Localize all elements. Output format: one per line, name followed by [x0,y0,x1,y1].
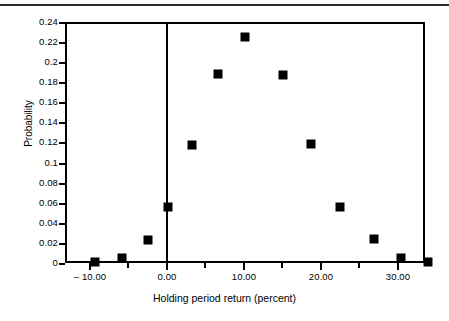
x-tick-label: 30.00 [386,271,410,282]
y-tick-mark [59,263,65,265]
y-tick-label: 0.04 [39,218,58,228]
y-tick-mark [59,122,65,124]
y-tick-label: 0 [53,258,58,268]
data-point [144,235,153,244]
y-tick-mark [59,163,65,165]
y-tick-label: 0.22 [39,37,58,47]
data-point [241,33,250,42]
data-point [118,253,127,262]
x-tick-label: – 10.00 [74,271,106,282]
y-tick-mark [59,82,65,84]
zero-vertical-axis [166,22,168,265]
y-tick-label: 0.18 [39,77,58,87]
y-tick-mark [59,223,65,225]
x-minor-tick-mark [281,263,283,268]
data-point [423,257,432,266]
x-tick-mark [166,263,168,270]
y-tick-label: 0.2 [44,57,58,67]
y-tick-mark [59,203,65,205]
x-tick-label: 0.00 [158,271,177,282]
y-tick-mark [59,22,65,24]
data-point [336,202,345,211]
y-tick-mark [59,102,65,104]
y-tick-label: 0.02 [39,238,58,248]
x-minor-tick-mark [204,263,206,268]
data-point [213,70,222,79]
y-tick-mark [59,62,65,64]
y-tick-mark [59,243,65,245]
y-tick-mark [59,42,65,44]
plot-area [65,22,425,263]
x-minor-tick-mark [127,263,129,268]
y-tick-label: 0.06 [39,198,58,208]
data-point [369,234,378,243]
data-point [188,140,197,149]
y-tick-mark [59,183,65,185]
y-axis-title: Probability [23,74,34,174]
data-point [306,139,315,148]
x-minor-tick-mark [358,263,360,268]
data-point [396,253,405,262]
y-tick-label: 0.14 [39,117,58,127]
y-tick-label: 0.24 [39,17,58,27]
y-tick-label: 0.1 [44,158,58,168]
y-tick-label: 0.08 [39,178,58,188]
data-point [91,257,100,266]
x-axis-title: Holding period return (percent) [0,292,449,304]
header-rule [0,4,449,6]
chart-figure: 0.24 0.22 0.2 0.18 0.16 0.14 0.12 0.1 0.… [0,0,449,321]
y-tick-label: 0.16 [39,97,58,107]
x-tick-mark [397,263,399,270]
data-point [279,71,288,80]
y-tick-mark [59,142,65,144]
data-point [163,202,172,211]
x-tick-label: 10.00 [232,271,256,282]
x-tick-label: 20.00 [309,271,333,282]
x-tick-mark [320,263,322,270]
x-tick-mark [243,263,245,270]
y-tick-label: 0.12 [39,137,58,147]
